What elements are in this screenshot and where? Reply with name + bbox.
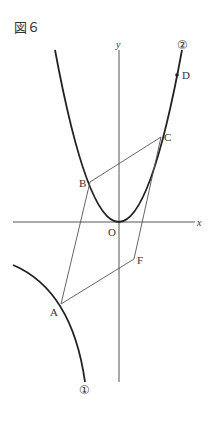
hyperbola-curve-1 — [13, 265, 85, 382]
segment-AF — [61, 259, 134, 304]
point-A-label: A — [50, 306, 58, 318]
curve-1-label: ① — [79, 383, 90, 397]
segment-BC — [90, 137, 161, 182]
segment-BA — [61, 182, 90, 304]
segment-FC — [134, 137, 161, 259]
point-D-label: D — [182, 69, 190, 81]
y-axis-label: y — [115, 39, 121, 50]
figure-6-diagram: 図６ x y O B C D F A ② ① — [0, 0, 217, 437]
point-D-dot — [175, 73, 179, 77]
point-F-label: F — [137, 254, 143, 266]
point-C-label: C — [164, 131, 171, 143]
figure-title: 図６ — [14, 20, 40, 35]
origin-label: O — [108, 226, 116, 238]
curve-2-label: ② — [177, 38, 188, 52]
point-B-label: B — [79, 177, 86, 189]
x-axis-label: x — [196, 217, 202, 228]
